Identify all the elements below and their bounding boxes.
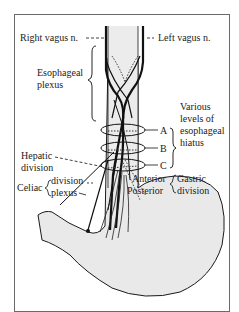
label-celiac-division: division bbox=[51, 175, 83, 186]
label-anterior: Anterior bbox=[132, 173, 167, 184]
label-esophageal-plexus-1: Esophageal bbox=[37, 67, 83, 78]
label-hepatic-1: Hepatic bbox=[21, 150, 53, 161]
label-esophageal-plexus-2: plexus bbox=[37, 79, 63, 90]
label-celiac-plexus: plexus bbox=[51, 187, 77, 198]
celiac-plexus-dot bbox=[86, 229, 90, 233]
label-gastric-division: division bbox=[177, 185, 209, 196]
label-level-b: B bbox=[160, 143, 167, 154]
label-celiac: Celiac bbox=[17, 182, 43, 193]
label-hepatic-2: division bbox=[21, 162, 53, 173]
hiatus-brace bbox=[170, 128, 176, 168]
label-posterior: Posterior bbox=[127, 185, 164, 196]
label-right-vagus: Right vagus n. bbox=[20, 32, 78, 43]
label-level-c: C bbox=[160, 160, 167, 171]
label-hiatus-4: hiatus bbox=[180, 137, 204, 148]
label-left-vagus: Left vagus n. bbox=[158, 32, 211, 43]
label-level-a: A bbox=[160, 125, 168, 136]
esophageal-plexus-brace bbox=[88, 46, 96, 121]
label-gastric: Gastric bbox=[177, 173, 206, 184]
label-hiatus-3: esophageal bbox=[180, 125, 225, 136]
label-hiatus-2: levels of bbox=[180, 113, 215, 124]
label-hiatus-1: Various bbox=[180, 101, 211, 112]
